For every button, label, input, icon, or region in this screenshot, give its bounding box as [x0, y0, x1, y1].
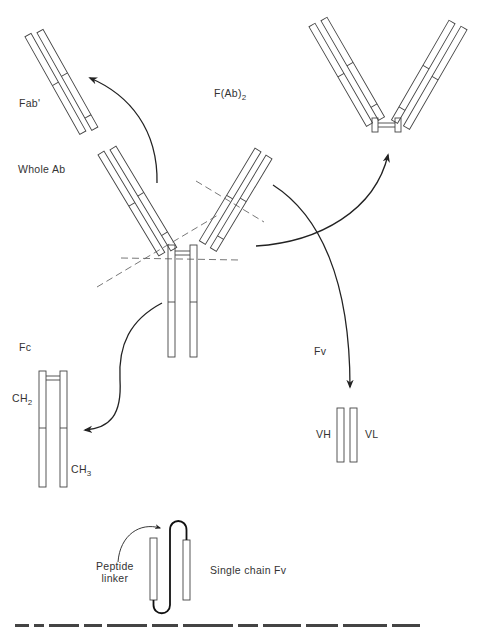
label-single-chain-fv: Single chain Fv	[210, 564, 286, 576]
label-peptide-linker-line2: linker	[96, 572, 134, 584]
label-whole-ab: Whole Ab	[18, 163, 65, 175]
label-vl: VL	[365, 428, 378, 440]
label-ch2-sub: 2	[28, 398, 33, 407]
fab2-fragment	[309, 17, 467, 132]
fv-fragment	[337, 408, 357, 462]
label-peptide-linker: Peptide linker	[96, 560, 134, 584]
label-ch3-sub: 3	[87, 469, 92, 478]
fab-prime-fragment	[25, 29, 98, 134]
fc-fragment	[39, 371, 67, 487]
arrow-to-fc	[85, 303, 162, 430]
label-fab2: F(Ab)2	[214, 87, 247, 102]
peptide-linker-chain	[154, 521, 187, 613]
label-ch2: CH2	[12, 392, 33, 407]
label-ch2-main: CH	[12, 392, 28, 404]
arrow-to-fab2	[256, 155, 388, 246]
cleavage-lines	[97, 181, 264, 287]
arrows	[85, 78, 388, 562]
label-fab2-sub: 2	[242, 93, 247, 102]
label-vh: VH	[316, 428, 331, 440]
label-fab-prime: Fab'	[19, 97, 40, 109]
whole-antibody	[98, 146, 272, 357]
figure-caption-cropped	[15, 624, 470, 629]
arrow-peptide-linker	[118, 527, 160, 562]
label-fv: Fv	[314, 345, 326, 357]
label-fab2-main: F(Ab)	[214, 87, 242, 99]
label-ch3-main: CH	[71, 463, 87, 475]
label-peptide-linker-line1: Peptide	[96, 560, 134, 572]
arrow-to-fv	[273, 185, 350, 387]
label-fc: Fc	[19, 341, 31, 353]
label-ch3: CH3	[71, 463, 92, 478]
arrow-to-fab-prime	[90, 78, 157, 183]
